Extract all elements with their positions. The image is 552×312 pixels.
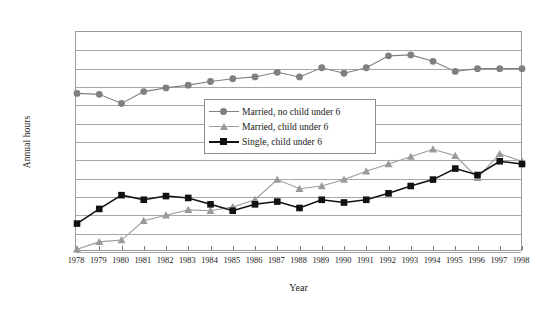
x-axis-tick-label: 1998 <box>501 256 541 265</box>
circle-data-point <box>274 69 281 76</box>
legend-label: Married, child under 6 <box>239 121 328 132</box>
legend-marker <box>220 108 227 115</box>
circle-data-point <box>74 90 81 97</box>
square-data-point <box>96 206 103 213</box>
triangle-data-point <box>496 150 504 157</box>
circle-data-point <box>474 65 481 72</box>
square-data-point <box>118 192 125 199</box>
square-data-point <box>274 198 281 205</box>
circle-data-point <box>407 52 414 59</box>
legend-item: Married, child under 6 <box>209 119 369 134</box>
triangle-data-point <box>340 176 348 183</box>
square-data-point <box>163 193 170 200</box>
circle-data-point <box>252 74 259 81</box>
circle-data-point <box>385 52 392 59</box>
circle-data-point <box>118 100 125 107</box>
circle-data-point <box>341 70 348 77</box>
y-axis-title: Annual hours <box>22 87 32 197</box>
circle-data-point <box>496 65 503 72</box>
circle-data-point <box>430 58 437 65</box>
circle-marker-icon <box>209 105 239 119</box>
square-data-point <box>519 161 526 168</box>
line-chart: Annual hours 200.0100.00.0-100.0-200.0-3… <box>0 0 552 312</box>
triangle-data-point <box>273 176 281 183</box>
square-data-point <box>185 195 192 202</box>
legend-marker <box>220 123 228 130</box>
circle-data-point <box>229 75 236 82</box>
square-data-point <box>207 201 214 208</box>
circle-data-point <box>207 78 214 85</box>
square-data-point <box>385 190 392 197</box>
legend-label: Single, child under 6 <box>239 136 322 147</box>
circle-data-point <box>140 88 147 95</box>
circle-data-point <box>519 65 526 72</box>
circle-data-point <box>318 64 325 71</box>
square-data-point <box>452 165 459 172</box>
chart-legend: Married, no child under 6Married, child … <box>204 99 376 154</box>
circle-data-point <box>363 64 370 71</box>
square-marker-icon <box>209 135 239 149</box>
series-square <box>74 158 526 227</box>
square-data-point <box>229 207 236 214</box>
circle-data-point <box>185 82 192 89</box>
legend-label: Married, no child under 6 <box>239 106 340 117</box>
square-data-point <box>140 196 147 203</box>
square-data-point <box>363 196 370 203</box>
legend-item: Married, no child under 6 <box>209 104 369 119</box>
triangle-marker-icon <box>209 120 239 134</box>
gridline <box>76 252 521 253</box>
triangle-data-point <box>429 145 437 152</box>
x-axis-title: Year <box>75 282 522 293</box>
square-data-point <box>407 183 414 190</box>
circle-data-point <box>96 91 103 98</box>
circle-data-point <box>163 85 170 92</box>
square-data-point <box>318 196 325 203</box>
square-data-point <box>474 172 481 179</box>
circle-data-point <box>296 74 303 81</box>
square-data-point <box>74 220 81 227</box>
legend-item: Single, child under 6 <box>209 134 369 149</box>
circle-data-point <box>452 68 459 75</box>
legend-marker <box>220 138 227 145</box>
square-data-point <box>430 176 437 183</box>
square-data-point <box>496 158 503 165</box>
square-data-point <box>341 199 348 206</box>
square-data-point <box>296 205 303 212</box>
square-data-point <box>252 201 259 208</box>
